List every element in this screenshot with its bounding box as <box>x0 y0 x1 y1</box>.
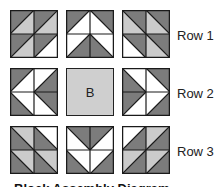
block-r2-c3 <box>122 68 170 116</box>
block-r3-c2 <box>66 126 114 174</box>
row-2-label: Row 2 <box>177 86 214 101</box>
row-1-label: Row 1 <box>177 28 214 43</box>
block-r1-c2 <box>66 10 114 58</box>
block-r1-c3 <box>122 10 170 58</box>
block-r1-c1 <box>10 10 58 58</box>
row-3-label: Row 3 <box>177 144 214 159</box>
diagram-caption: Block Assembly Diagram <box>14 181 170 187</box>
block-r3-c3 <box>122 126 170 174</box>
block-b-label: B <box>86 85 95 100</box>
block-b-plain: B <box>66 68 114 116</box>
block-r3-c1 <box>10 126 58 174</box>
block-r2-c1 <box>10 68 58 116</box>
